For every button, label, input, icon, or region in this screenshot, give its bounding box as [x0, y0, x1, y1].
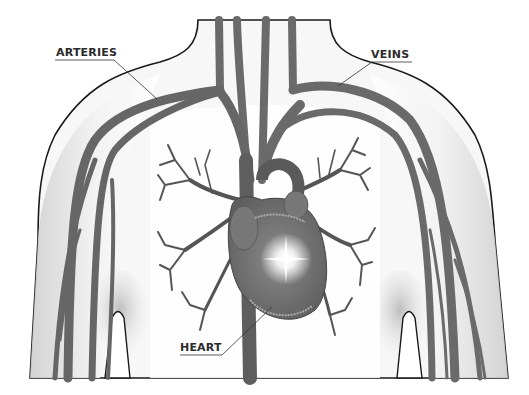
- circulatory-diagram: ARTERIES VEINS HEART: [0, 0, 529, 395]
- label-heart: HEART: [180, 341, 222, 354]
- torso-illustration: [0, 0, 529, 395]
- label-veins: VEINS: [371, 48, 409, 61]
- label-arteries: ARTERIES: [56, 46, 117, 59]
